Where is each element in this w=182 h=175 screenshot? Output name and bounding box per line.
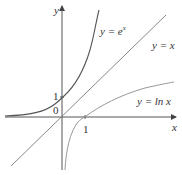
y-axis-label: y (54, 5, 59, 16)
identity-label: y = x (152, 40, 175, 51)
exp-curve-label: y = ex (100, 25, 126, 37)
exp-power: x (123, 24, 126, 32)
exp-curve (5, 10, 99, 116)
origin-label: 0 (53, 105, 59, 116)
graph-canvas (0, 0, 182, 175)
log-label: y = ln x (137, 96, 171, 107)
exp-prefix: y = (100, 25, 118, 37)
identity-line (11, 15, 166, 166)
y-tick-label: 1 (53, 91, 59, 102)
x-tick-label: 1 (83, 124, 89, 135)
x-axis-label: x (172, 122, 177, 133)
